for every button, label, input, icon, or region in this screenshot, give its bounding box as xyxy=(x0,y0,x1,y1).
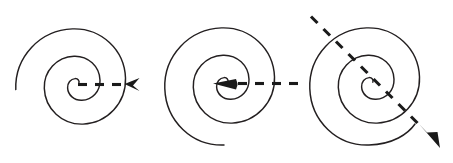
spiral-flow-diagram xyxy=(0,0,453,163)
